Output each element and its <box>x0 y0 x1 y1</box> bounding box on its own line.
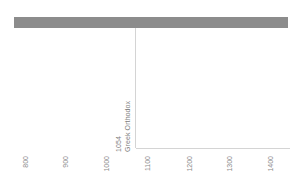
x-tick-label-1100: 1100 <box>144 156 151 171</box>
x-tick-label-1000: 1000 <box>103 156 110 172</box>
timeline-chart: 1054 Greek Orthodox 800 900 1000 1100 12… <box>0 0 304 187</box>
annotation-label-greek-orthodox: Greek Orthodox <box>124 101 131 152</box>
x-tick-label-900: 900 <box>62 156 69 168</box>
timeline-span-bar <box>14 17 288 28</box>
x-tick-label-800: 800 <box>22 156 29 168</box>
annotation-year-1054: 1054 <box>115 136 122 152</box>
x-tick-label-1200: 1200 <box>186 156 193 172</box>
x-axis-line <box>136 148 290 149</box>
annotation-leader-line <box>135 28 136 148</box>
x-tick-label-1400: 1400 <box>267 156 274 172</box>
x-tick-label-1300: 1300 <box>226 156 233 172</box>
